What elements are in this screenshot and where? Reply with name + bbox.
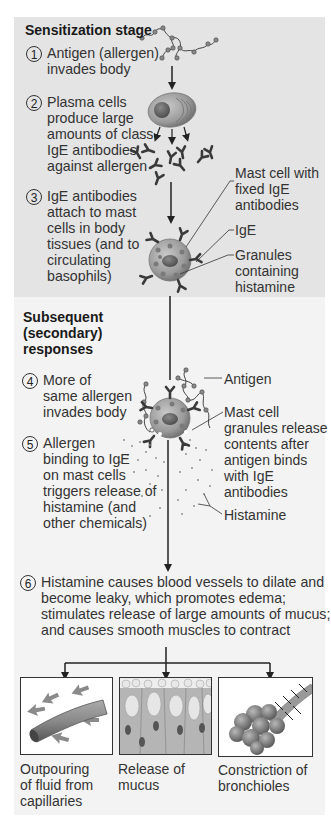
step-number-2: 2 — [26, 95, 42, 111]
step-5: 5 Allergen binding to IgE on mast cells … — [22, 435, 157, 531]
step-3: 3 IgE antibodies attach to mast cells in… — [26, 188, 139, 284]
step-5-text: Allergen binding to IgE on mast cells tr… — [43, 435, 157, 531]
step-number-4: 4 — [22, 373, 38, 389]
histamine-label: Histamine — [224, 507, 286, 523]
secondary-response-heading: Subsequent (secondary) responses — [23, 309, 103, 357]
bronchioles-icon — [219, 678, 313, 757]
ige-label: IgE — [235, 222, 256, 238]
mucus-image — [119, 677, 212, 755]
step-number-6: 6 — [20, 575, 36, 591]
granules-release-label: Mast cell granules release contents afte… — [224, 404, 328, 500]
mucus-cells-icon — [120, 678, 212, 755]
step-number-5: 5 — [22, 436, 38, 452]
sensitization-heading: Sensitization stage — [25, 22, 152, 38]
step-6: 6 Histamine causes blood vessels to dila… — [20, 574, 330, 638]
bronchioles-caption: Constriction of bronchioles — [218, 762, 307, 794]
step-number-3: 3 — [26, 189, 42, 205]
mucus-caption: Release of mucus — [118, 761, 185, 793]
step-2: 2 Plasma cells produce large amounts of … — [26, 94, 153, 174]
step-4-text: More of same allergen invades body — [43, 372, 132, 420]
step-4: 4 More of same allergen invades body — [22, 372, 132, 420]
step-number-1: 1 — [26, 46, 42, 62]
step-3-text: IgE antibodies attach to mast cells in b… — [47, 188, 139, 284]
bronchioles-image — [218, 677, 313, 757]
capillary-icon — [21, 678, 113, 755]
step-1-text: Antigen (allergen) invades body — [47, 45, 159, 77]
step-1: 1 Antigen (allergen) invades body — [26, 45, 159, 77]
antigen-label: Antigen — [224, 371, 271, 387]
capillary-image — [20, 677, 113, 755]
step-6-text: Histamine causes blood vessels to dilate… — [41, 574, 330, 638]
mast-cell-label: Mast cell with fixed IgE antibodies — [235, 165, 319, 213]
plasma-cell-icon — [146, 90, 198, 130]
capillary-caption: Outpouring of fluid from capillaries — [20, 761, 93, 809]
step-2-text: Plasma cells produce large amounts of cl… — [47, 94, 153, 174]
granules-label: Granules containing histamine — [235, 247, 299, 295]
